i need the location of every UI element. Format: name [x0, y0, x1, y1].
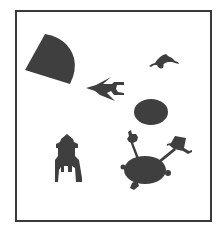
tower-shape	[55, 134, 82, 182]
quarter-circle-shape	[25, 34, 75, 84]
silhouette-drawing	[0, 0, 223, 232]
figure-canvas	[0, 0, 223, 232]
blob-right-arm-shape	[158, 148, 176, 163]
oval-shape	[134, 99, 168, 125]
bird-shape	[86, 77, 124, 101]
blob-right-bump-shape	[165, 170, 171, 176]
creature-head-shape	[159, 64, 164, 69]
blob-left-knob-shape	[127, 130, 138, 143]
creature-shape	[149, 54, 179, 68]
blob-left-arm-shape	[130, 140, 139, 160]
blob-left-bump-shape	[121, 165, 126, 170]
